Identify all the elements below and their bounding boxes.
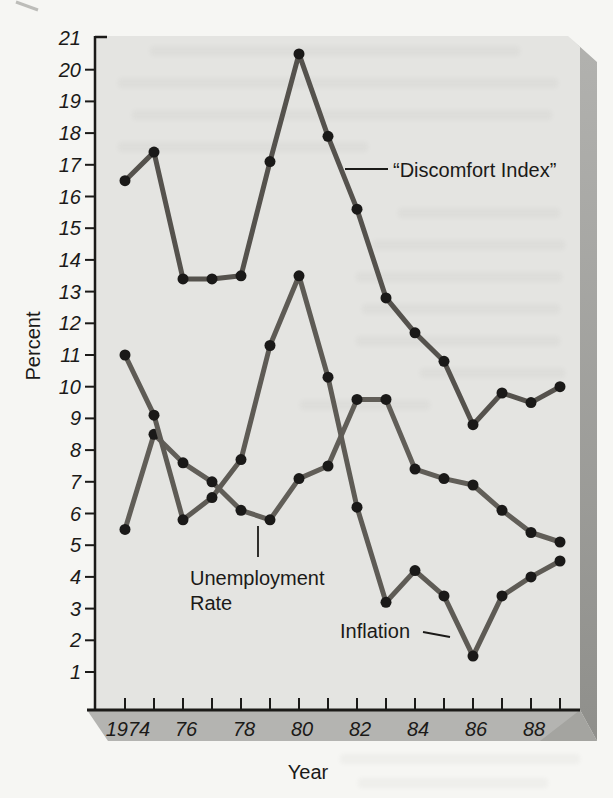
x-tick-label: 80: [291, 718, 313, 740]
y-tick-label: 18: [59, 122, 81, 144]
ghost-text-row: [356, 336, 560, 346]
data-point: [265, 514, 276, 525]
y-tick-label: 7: [70, 471, 82, 493]
y-tick-label: 6: [70, 503, 82, 525]
x-tick-label: 82: [349, 718, 371, 740]
slab-bottom-edge: [87, 710, 597, 741]
data-point: [497, 590, 508, 601]
series-label-inflation: Inflation: [340, 620, 410, 642]
ghost-text-row: [358, 778, 548, 788]
data-point: [381, 292, 392, 303]
ghost-text-row: [420, 368, 565, 378]
ghost-text-row: [398, 208, 560, 218]
x-tick-label: 78: [233, 718, 255, 740]
data-point: [468, 651, 479, 662]
y-tick-label: 19: [59, 90, 81, 112]
y-axis-title: Percent: [22, 311, 44, 380]
data-point: [207, 492, 218, 503]
x-axis-title: Year: [288, 761, 329, 783]
data-point: [497, 505, 508, 516]
data-point: [178, 514, 189, 525]
discomfort-index-line-chart: 1234567891011121314151617181920211974767…: [0, 0, 613, 798]
data-point: [294, 270, 305, 281]
data-point: [120, 350, 131, 361]
data-point: [294, 473, 305, 484]
y-tick-label: 14: [59, 249, 81, 271]
x-tick-label: 1974: [106, 718, 151, 740]
data-point: [410, 464, 421, 475]
ghost-text-row: [372, 240, 565, 250]
data-point: [265, 340, 276, 351]
ghost-text-row: [356, 272, 562, 282]
data-point: [207, 273, 218, 284]
book-page: 1234567891011121314151617181920211974767…: [0, 0, 613, 798]
data-point: [555, 556, 566, 567]
y-tick-label: 3: [70, 598, 81, 620]
data-point: [352, 204, 363, 215]
data-point: [468, 419, 479, 430]
x-tick-label: 88: [523, 718, 545, 740]
y-tick-label: 11: [60, 344, 81, 366]
data-point: [236, 270, 247, 281]
data-point: [410, 327, 421, 338]
data-point: [352, 502, 363, 513]
y-tick-label: 17: [59, 154, 82, 176]
data-point: [207, 476, 218, 487]
y-tick-label: 1: [70, 661, 81, 683]
data-point: [497, 388, 508, 399]
data-point: [323, 372, 334, 383]
data-point: [236, 505, 247, 516]
data-point: [323, 461, 334, 472]
y-tick-label: 16: [59, 186, 82, 208]
data-point: [410, 565, 421, 576]
data-point: [323, 131, 334, 142]
y-tick-label: 13: [59, 281, 81, 303]
y-tick-label: 21: [58, 27, 81, 49]
series-label-unemployment-line2: Rate: [190, 592, 232, 614]
data-point: [439, 590, 450, 601]
y-tick-label: 9: [70, 407, 81, 429]
data-point: [381, 597, 392, 608]
x-tick-label: 86: [465, 718, 488, 740]
data-point: [236, 454, 247, 465]
x-tick-label: 84: [407, 718, 429, 740]
data-point: [526, 527, 537, 538]
ghost-text-row: [118, 78, 558, 88]
y-tick-label: 12: [59, 312, 81, 334]
ghost-text-row: [150, 46, 520, 56]
series-label-discomfort-index: “Discomfort Index”: [393, 159, 556, 181]
y-tick-label: 8: [70, 439, 81, 461]
data-point: [439, 356, 450, 367]
y-tick-label: 4: [70, 566, 81, 588]
data-point: [149, 410, 160, 421]
data-point: [120, 524, 131, 535]
y-tick-label: 5: [70, 534, 82, 556]
data-point: [439, 473, 450, 484]
y-tick-label: 10: [59, 376, 81, 398]
data-point: [381, 394, 392, 405]
ghost-text-row: [340, 754, 580, 764]
data-point: [265, 156, 276, 167]
y-tick-label: 20: [58, 59, 81, 81]
data-point: [178, 457, 189, 468]
data-point: [468, 480, 479, 491]
data-point: [352, 394, 363, 405]
ghost-text-row: [132, 110, 552, 120]
series-label-unemployment-line1: Unemployment: [190, 567, 325, 589]
data-point: [120, 175, 131, 186]
data-point: [149, 147, 160, 158]
data-point: [178, 273, 189, 284]
y-tick-label: 15: [59, 217, 82, 239]
data-point: [526, 397, 537, 408]
x-tick-label: 76: [175, 718, 198, 740]
y-tick-label: 2: [69, 629, 81, 651]
data-point: [526, 571, 537, 582]
data-point: [555, 381, 566, 392]
data-point: [555, 537, 566, 548]
data-point: [294, 48, 305, 59]
